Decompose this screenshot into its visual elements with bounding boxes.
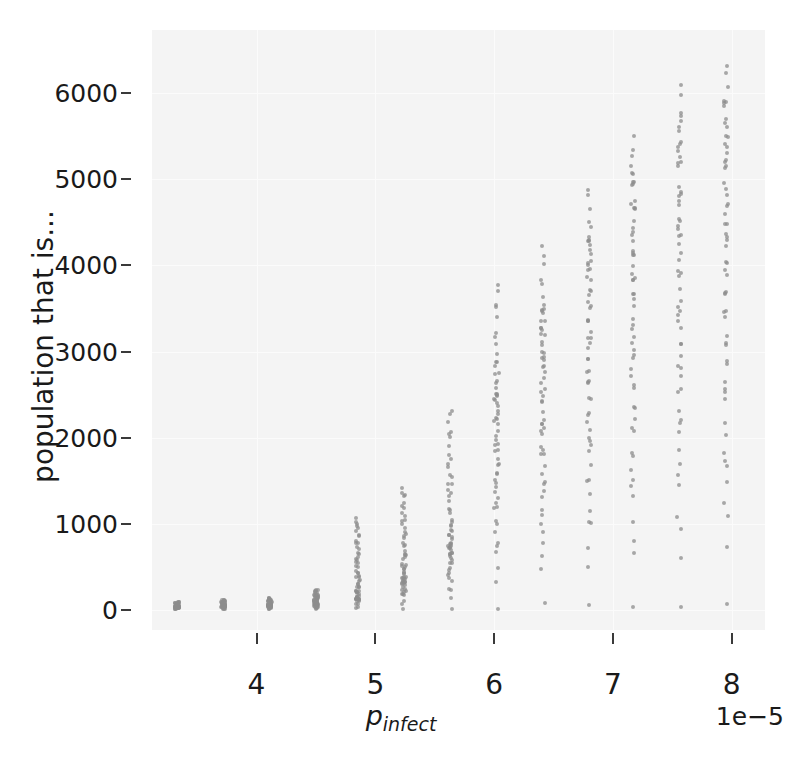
x-tick-label-4: 4 — [248, 668, 266, 701]
x-axis-label-base: p — [366, 700, 383, 731]
x-axis-label-subscript: infect — [383, 713, 437, 735]
x-tick-mark-4 — [256, 633, 258, 644]
x-tick-mark-5 — [374, 633, 376, 644]
x-tick-label-6: 6 — [485, 668, 503, 701]
x-tick-label-7: 7 — [604, 668, 622, 701]
x-tick-label-5: 5 — [366, 668, 384, 701]
x-tick-mark-6 — [493, 633, 495, 644]
scatter-chart-figure: population that is... 010002000300040005… — [0, 0, 802, 768]
x-axis: 45678 — [0, 0, 802, 768]
x-tick-label-8: 8 — [723, 668, 741, 701]
x-tick-mark-7 — [612, 633, 614, 644]
x-axis-label: pinfect — [0, 700, 802, 735]
x-axis-offset-exponent: 1e−5 — [716, 702, 784, 731]
x-tick-mark-8 — [731, 633, 733, 644]
